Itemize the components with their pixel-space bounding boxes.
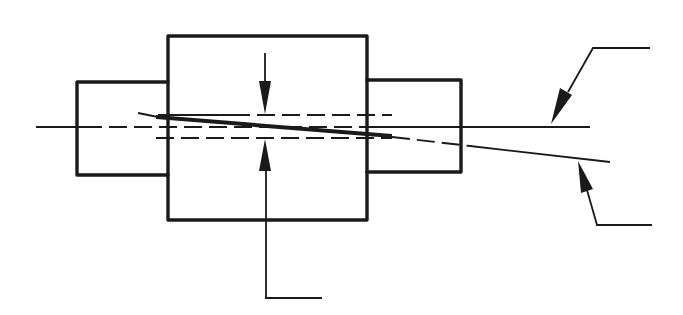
left-shaft <box>77 82 168 175</box>
coupling-body <box>168 36 367 220</box>
right-shaft <box>367 80 461 172</box>
offset-arrow-down <box>259 53 271 114</box>
arrowhead-down-icon <box>259 81 271 114</box>
diagram-canvas <box>0 0 683 315</box>
misalignment-drawing <box>0 0 683 315</box>
leader-centerline <box>551 48 650 124</box>
arrowhead-leader-top-icon <box>551 88 572 124</box>
arrowhead-leader-bottom-icon <box>578 161 593 193</box>
arrowhead-up-icon <box>259 139 271 171</box>
leader-angular-axis <box>578 161 652 225</box>
